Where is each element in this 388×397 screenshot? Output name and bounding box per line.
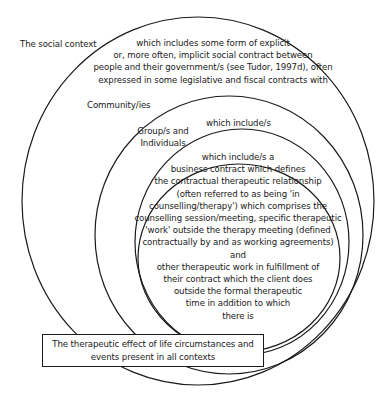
text-line: contractually by and as working agreemen… (134, 236, 341, 248)
social-context-label: The social context (20, 38, 97, 50)
text-line: counselling/therapy') which comprises th… (134, 200, 341, 212)
text-line: Group/s and (137, 125, 188, 137)
community-label: Community/ies (87, 99, 151, 111)
text-line: other therapeutic work in fulfillment of (134, 261, 341, 273)
business-contract-description: which include/s a business contract whic… (134, 151, 341, 322)
text-line: which include/s a (134, 151, 341, 163)
text-line: the contractual therapeutic relationship (134, 175, 341, 187)
text-line: events present in all contexts (43, 351, 263, 364)
text-line: business contract which defines (134, 163, 341, 175)
text-line: expressed in some legislative and fiscal… (93, 74, 332, 86)
text-line: The therapeutic effect of life circumsta… (43, 338, 263, 351)
text-line: outside the formal therapeutic (134, 285, 341, 297)
text-line: time in addition to which (134, 297, 341, 309)
text-line: counselling session/meeting, specific th… (134, 212, 341, 224)
text-line: people and their government/s (see Tudor… (93, 61, 332, 73)
text-line: Individuals (137, 137, 188, 149)
text-line: there is (134, 310, 341, 322)
group-individuals-label: Group/s and Individuals (137, 125, 188, 149)
text-line: their contract which the client does (134, 273, 341, 285)
life-circumstances-box: The therapeutic effect of life circumsta… (42, 334, 264, 367)
text-line: or, more often, implicit social contract… (93, 49, 332, 61)
group-description: which include/s (206, 117, 271, 129)
text-line: and (134, 249, 341, 261)
text-line: 'work' outside the therapy meeting (defi… (134, 224, 341, 236)
text-line: which includes some form of explicit (93, 37, 332, 49)
social-context-description: which includes some form of explicit or,… (93, 37, 332, 86)
text-line: (often referred to as being 'in (134, 188, 341, 200)
